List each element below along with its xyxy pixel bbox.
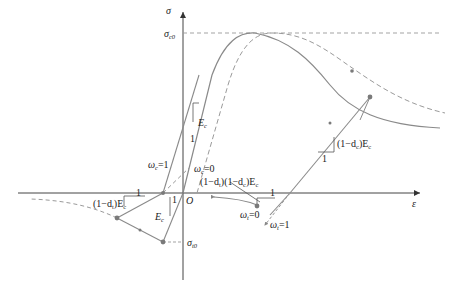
slope-mid-label: (1−dt)(1−dc)Ec xyxy=(200,176,258,188)
ec-top-label: Ec xyxy=(197,117,207,129)
marker-omega-t0 xyxy=(255,204,260,209)
marker-right-dash xyxy=(350,69,354,73)
one-top-label: 1 xyxy=(190,133,195,144)
sigma-t0-label: σt0 xyxy=(187,237,198,249)
marker-left-mid xyxy=(139,229,142,232)
slope-right-label: (1−dc)Ec xyxy=(337,138,371,150)
omega-t0-curve xyxy=(214,197,257,205)
one-left-horiz-label: 1 xyxy=(136,187,141,198)
right-peak-connector xyxy=(360,97,370,120)
stress-strain-diagram: σ ε O σc0 σt0 Ec 1 Ec 1 1 1 1 ωc=1 ωc=0 … xyxy=(0,0,457,298)
omega-c0-label: ωc=0 xyxy=(194,163,215,175)
omega-t0-label: ωt=0 xyxy=(240,209,260,221)
x-axis-label: ε xyxy=(412,198,416,209)
y-axis-label: σ xyxy=(166,5,172,16)
compression-envelope-solid xyxy=(183,33,440,193)
origin-label: O xyxy=(186,195,193,206)
marker-right-peak xyxy=(368,95,373,100)
one-mid-label: 1 xyxy=(270,187,275,198)
sigma-c0-label: σc0 xyxy=(164,28,176,40)
ec-left-label: Ec xyxy=(154,211,164,223)
marker-left-axis xyxy=(161,191,165,195)
marker-tension-peak xyxy=(161,240,166,245)
marker-left-unload xyxy=(115,216,120,221)
compression-envelope-dashed xyxy=(197,33,445,193)
slope-left-label: (1−dt)Ec xyxy=(93,198,126,210)
one-left-vert-label: 1 xyxy=(172,194,177,205)
omega-t1-label: ωt=1 xyxy=(270,219,290,231)
marker-mid xyxy=(329,122,332,125)
one-right-label: 1 xyxy=(322,153,327,164)
omega-c1-label: ωc=1 xyxy=(148,159,169,171)
